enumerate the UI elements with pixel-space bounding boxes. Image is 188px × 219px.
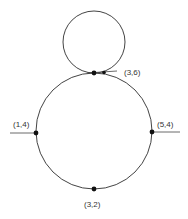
lower-circle bbox=[36, 73, 152, 189]
upper-circle bbox=[63, 11, 125, 73]
leader-line-3-6 bbox=[87, 71, 117, 73]
point-3-2 bbox=[92, 187, 97, 192]
point-3-6 bbox=[92, 71, 97, 76]
point-5-4 bbox=[150, 130, 155, 135]
label-3-2: (3,2) bbox=[84, 200, 101, 209]
circles-diagram: (3,6) (1,4) (5,4) (3,2) bbox=[0, 0, 188, 219]
point-1-4 bbox=[34, 131, 39, 136]
arrow-dot-3-6 bbox=[102, 71, 106, 75]
label-3-6: (3,6) bbox=[124, 68, 141, 77]
label-5-4: (5,4) bbox=[157, 120, 174, 129]
label-1-4: (1,4) bbox=[13, 120, 30, 129]
